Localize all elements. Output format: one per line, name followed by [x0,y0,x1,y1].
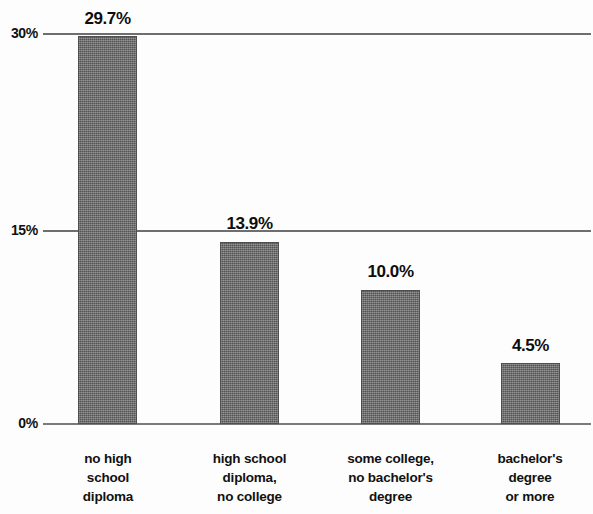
bar-no-high-school-diploma [78,36,137,424]
category-line: or more [470,487,590,506]
category-line: no high [48,449,168,468]
category-line: school [48,468,168,487]
y-axis-tick-label-0: 0% [2,416,38,430]
bar-bachelors-degree-or-more [501,363,560,424]
bar-value-label-1: 29.7% [58,10,157,27]
y-axis-tick-label-30: 30% [2,26,38,40]
bar-some-college-no-bachelors-degree [361,290,420,424]
category-line: high school [187,449,312,468]
category-line: no college [187,487,312,506]
category-line: bachelor's [470,449,590,468]
x-axis-category-label-4: bachelor's degree or more [470,449,590,506]
category-line: diploma [48,487,168,506]
category-line: degree [470,468,590,487]
bar-value-label-2: 13.9% [200,215,299,232]
bar-value-label-3: 10.0% [341,263,440,280]
x-axis-category-label-2: high school diploma, no college [187,449,312,506]
x-axis-category-label-1: no high school diploma [48,449,168,506]
bar-chart: 30% 15% 0% 29.7% no high school diploma … [0,0,593,514]
bar-high-school-diploma-no-college [220,242,279,424]
plot-area: 30% 15% 0% 29.7% no high school diploma … [0,0,593,514]
category-line: some college, [323,449,458,468]
category-line: diploma, [187,468,312,487]
category-line: degree [323,487,458,506]
bar-value-label-4: 4.5% [481,337,580,354]
category-line: no bachelor's [323,468,458,487]
gridline-30 [43,33,591,35]
x-axis-category-label-3: some college, no bachelor's degree [323,449,458,506]
y-axis-tick-label-15: 15% [2,223,38,237]
